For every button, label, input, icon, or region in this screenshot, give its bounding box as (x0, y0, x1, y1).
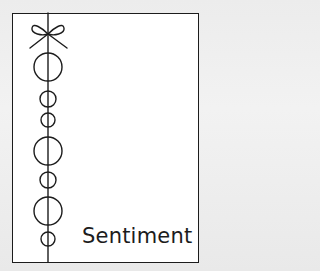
card-label: Sentiment (82, 224, 192, 248)
